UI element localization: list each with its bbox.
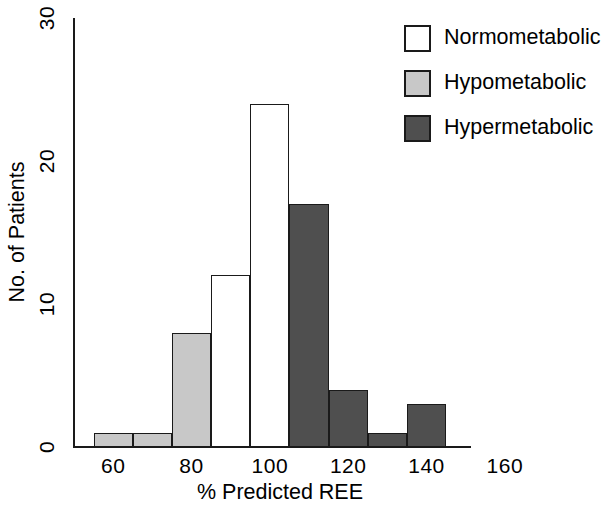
y-tick-label: 20 — [36, 149, 57, 173]
x-axis-label: % Predicted REE — [197, 482, 363, 504]
legend-item: Hypometabolic — [404, 64, 601, 102]
histogram-bar — [172, 333, 211, 447]
legend-swatch — [404, 70, 431, 97]
legend: NormometabolicHypometabolicHypermetaboli… — [404, 19, 601, 154]
y-tick-label: 10 — [36, 292, 57, 316]
histogram-figure: 0102030 6080100120140160 No. of Patients… — [0, 0, 601, 506]
x-tick-label: 120 — [330, 455, 367, 476]
histogram-bar — [329, 390, 368, 447]
x-tick-label: 60 — [101, 455, 125, 476]
legend-label: Normometabolic — [444, 27, 601, 49]
histogram-bar — [94, 433, 133, 447]
x-tick-label: 140 — [408, 455, 445, 476]
legend-item: Hypermetabolic — [404, 109, 601, 147]
legend-item: Normometabolic — [404, 19, 601, 57]
x-tick-label: 160 — [487, 455, 524, 476]
legend-label: Hypometabolic — [444, 72, 586, 94]
y-axis-label: No. of Patients — [7, 161, 29, 302]
histogram-bar — [211, 275, 250, 447]
y-tick-label: 0 — [36, 441, 57, 453]
histogram-bar — [407, 404, 446, 447]
histogram-bar — [289, 204, 328, 447]
legend-label: Hypermetabolic — [444, 117, 593, 139]
legend-swatch — [404, 115, 431, 142]
x-tick-label: 100 — [252, 455, 289, 476]
legend-swatch — [404, 25, 431, 52]
histogram-bar — [250, 104, 289, 447]
histogram-bar — [133, 433, 172, 447]
y-tick-label: 30 — [36, 6, 57, 30]
x-tick-label: 80 — [179, 455, 203, 476]
histogram-bar — [368, 433, 407, 447]
